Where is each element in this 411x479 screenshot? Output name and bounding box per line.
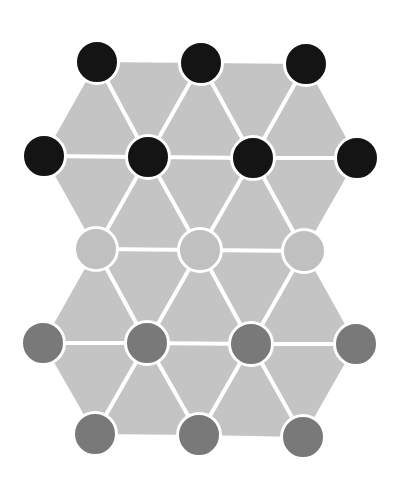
dark-atom-row-4-3: [230, 323, 273, 366]
black-atom-row-2-3: [232, 137, 275, 180]
dark-atom-row-5-3: [282, 416, 325, 459]
light-atom-row-3-1: [75, 228, 118, 271]
black-atom-row-2-4: [336, 137, 379, 180]
black-atom-row-2-2: [127, 136, 170, 179]
dark-atom-row-5-2: [178, 414, 221, 457]
dark-atom-row-5-1: [74, 413, 117, 456]
lattice-diagram: [0, 0, 411, 479]
black-atom-row-1-2: [180, 42, 223, 85]
black-atom-row-1-3: [285, 43, 328, 86]
dark-atom-row-4-4: [335, 323, 378, 366]
light-atom-row-3-2: [179, 229, 222, 272]
dark-atom-row-4-1: [22, 322, 65, 365]
light-atom-row-3-3: [283, 230, 326, 273]
black-atom-row-2-1: [23, 135, 66, 178]
black-atom-row-1-1: [76, 41, 119, 84]
dark-atom-row-4-2: [126, 322, 169, 365]
